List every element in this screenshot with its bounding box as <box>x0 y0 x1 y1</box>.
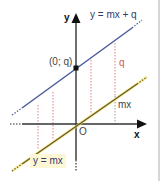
q-segment-label: q <box>119 57 125 69</box>
y-axis-arrow-icon <box>72 13 81 23</box>
line-shifted-label: y = mx + q <box>90 9 137 21</box>
y-axis-label: y <box>64 12 70 24</box>
mx-segment-label: mx <box>118 99 131 111</box>
x-axis-label: x <box>134 129 140 141</box>
intercept-label: (0; q) <box>49 56 72 68</box>
line-origin-label: y = mx <box>30 154 66 168</box>
origin-label: O <box>79 126 87 138</box>
x-axis-arrow-icon <box>137 120 147 129</box>
diagram-frame: y x O y = mx + q y = mx (0; q) q mx <box>0 0 164 181</box>
intercept-point <box>74 66 79 71</box>
linear-functions-graph <box>0 0 164 181</box>
